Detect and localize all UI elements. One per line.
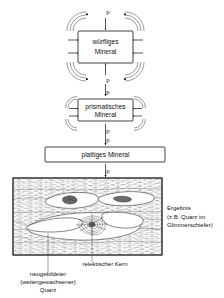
figure-canvas: würfliges Mineral p p p [0, 0, 224, 298]
box-prismatic-label-line2: Mineral [95, 111, 117, 118]
p-label-top-cubic: p [106, 8, 110, 16]
p-label-bottom-platy: p [106, 167, 110, 175]
deformation-diagram: würfliges Mineral p p p [0, 0, 224, 298]
label-result-line1: Ergebnis [167, 205, 191, 211]
schist-panel [13, 178, 162, 255]
p-label-top-prismatic: p [106, 88, 110, 96]
label-new-quartz-line3: Quarz [40, 287, 56, 293]
box-cubic-label-line2: Mineral [95, 48, 117, 55]
p-label-bottom-cubic: p [106, 76, 110, 84]
box-prismatic-label-line1: prismatisches [85, 103, 126, 111]
cubic-mineral-group: würfliges Mineral p p [67, 8, 144, 85]
p-label-bottom-prismatic: p [106, 127, 110, 135]
label-result-line3: Glimmerschiefer) [167, 222, 213, 228]
box-cubic-label-line1: würfliges [91, 38, 119, 46]
connector-cubic-prismatic: p [106, 84, 111, 96]
label-new-quartz-line1: neugebildeter [30, 271, 66, 277]
label-relic-core: relektischer Kern [82, 261, 127, 267]
connector-platy-panel: p [106, 164, 111, 177]
connector-prismatic-platy: p p [106, 124, 111, 145]
platy-mineral-group: plattiges Mineral [45, 147, 165, 162]
box-platy-label: plattiges Mineral [81, 151, 130, 159]
p-label-top-platy: p [106, 136, 110, 144]
label-new-quartz-line2: (weitergewachsener) [20, 279, 76, 285]
label-result-line2: (z.B. Quarz im [167, 214, 205, 220]
